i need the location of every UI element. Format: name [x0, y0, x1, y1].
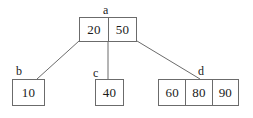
node-label-c: c: [93, 67, 98, 79]
node-a-key-0: 20: [80, 18, 108, 41]
node-label-b: b: [16, 65, 22, 77]
edge-a-to-b: [37, 41, 79, 79]
node-d-key-0: 60: [159, 80, 185, 105]
node-c[interactable]: 40: [95, 79, 124, 106]
edge-a-to-d: [137, 41, 200, 79]
node-c-key-0: 40: [96, 80, 123, 105]
node-label-a: a: [103, 4, 108, 16]
node-b-key-0: 10: [13, 80, 44, 105]
node-a-key-1: 50: [108, 18, 136, 41]
node-label-d: d: [198, 65, 204, 77]
node-b[interactable]: 10: [12, 79, 45, 106]
node-a[interactable]: 20 50: [79, 17, 137, 42]
node-d-key-1: 80: [185, 80, 211, 105]
node-d[interactable]: 60 80 90: [158, 79, 239, 106]
node-d-key-2: 90: [212, 80, 238, 105]
btree-diagram: a 20 50 b 10 c 40 d 60 80 90: [0, 0, 253, 118]
